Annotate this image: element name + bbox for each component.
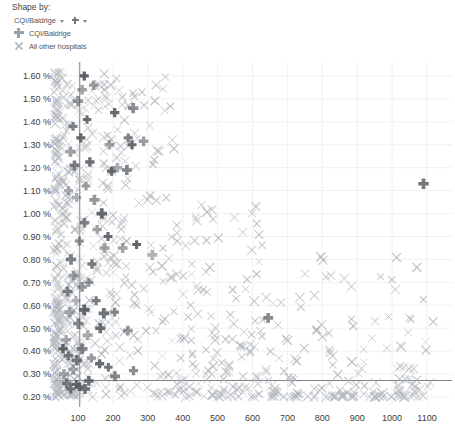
y-axis-tick-labels: 0.20 %0.30 %0.40 %0.50 %0.60 %0.70 %0.80… bbox=[23, 71, 51, 402]
data-point-other bbox=[152, 196, 160, 204]
data-point-other bbox=[206, 263, 214, 271]
y-axis-tick-label: 1.00 % bbox=[23, 209, 51, 219]
data-point-other bbox=[105, 100, 112, 107]
data-point-other bbox=[150, 268, 157, 275]
data-point-other bbox=[158, 262, 166, 270]
y-axis-tick-label: 1.10 % bbox=[23, 186, 51, 196]
data-point-other bbox=[170, 144, 178, 152]
data-point-other bbox=[293, 357, 301, 365]
data-point-other bbox=[173, 222, 180, 229]
data-point-other bbox=[310, 291, 319, 300]
data-point-other bbox=[429, 318, 437, 326]
data-point-other bbox=[274, 321, 282, 329]
data-point-cqi bbox=[99, 308, 109, 318]
data-point-other bbox=[189, 261, 195, 267]
data-point-other bbox=[100, 147, 108, 155]
data-point-cqi bbox=[80, 71, 89, 80]
data-point-other bbox=[368, 334, 376, 342]
y-axis-tick-label: 0.60 % bbox=[23, 301, 51, 311]
x-axis-tick-label: 100 bbox=[70, 413, 85, 423]
x-axis-tick-label: 200 bbox=[105, 413, 120, 423]
data-point-other bbox=[253, 271, 260, 278]
data-point-other bbox=[239, 228, 247, 236]
data-point-other bbox=[53, 160, 61, 168]
data-point-other bbox=[151, 362, 158, 369]
data-point-cqi bbox=[87, 259, 96, 268]
data-point-other bbox=[204, 376, 211, 383]
data-point-other bbox=[115, 343, 124, 352]
data-point-other bbox=[214, 234, 222, 242]
data-point-other bbox=[140, 101, 147, 108]
data-point-other bbox=[89, 242, 97, 250]
data-point-other bbox=[209, 362, 217, 370]
y-axis-tick-label: 0.30 % bbox=[23, 369, 51, 379]
data-point-other bbox=[160, 245, 166, 251]
data-point-other bbox=[377, 274, 383, 280]
data-point-other bbox=[168, 338, 175, 345]
data-point-other bbox=[162, 73, 169, 80]
data-point-other bbox=[99, 179, 108, 188]
data-point-other bbox=[229, 286, 236, 293]
data-point-other bbox=[132, 380, 141, 389]
data-point-other bbox=[420, 296, 426, 302]
data-point-other bbox=[347, 282, 355, 290]
data-point-other bbox=[408, 316, 414, 322]
y-axis-tick-label: 0.90 % bbox=[23, 232, 51, 242]
data-point-other bbox=[405, 329, 412, 336]
data-point-other bbox=[185, 313, 192, 320]
data-point-other bbox=[88, 209, 95, 216]
data-point-cqi bbox=[77, 85, 87, 95]
y-axis-tick-label: 0.40 % bbox=[23, 346, 51, 356]
data-point-other bbox=[222, 336, 229, 343]
data-point-other bbox=[250, 297, 259, 306]
y-axis-tick-label: 1.50 % bbox=[23, 94, 51, 104]
data-point-other bbox=[238, 353, 245, 360]
data-point-other bbox=[113, 154, 121, 162]
data-point-other bbox=[123, 263, 130, 270]
data-point-other bbox=[121, 279, 129, 287]
data-point-cqi bbox=[85, 157, 94, 166]
data-point-other bbox=[167, 103, 173, 109]
data-point-other bbox=[138, 89, 145, 96]
data-point-other bbox=[198, 201, 205, 208]
data-point-other bbox=[203, 237, 210, 244]
data-point-other bbox=[360, 346, 367, 353]
data-point-other bbox=[413, 263, 421, 271]
x-axis-tick-labels: 10020030040050060070080090010001100 bbox=[70, 413, 436, 423]
x-axis-tick-label: 700 bbox=[280, 413, 295, 423]
data-point-other bbox=[255, 231, 263, 239]
data-point-other bbox=[422, 346, 430, 354]
y-axis-tick-label: 0.50 % bbox=[23, 324, 51, 334]
data-point-other bbox=[120, 116, 128, 124]
data-point-other bbox=[119, 94, 126, 101]
data-point-other bbox=[163, 194, 170, 201]
data-point-other bbox=[211, 336, 220, 345]
data-point-other bbox=[146, 263, 154, 271]
x-axis-tick-label: 600 bbox=[245, 413, 260, 423]
data-point-other bbox=[208, 385, 214, 391]
data-point-other bbox=[118, 392, 125, 399]
data-point-cqi bbox=[89, 195, 99, 205]
data-point-other bbox=[115, 126, 121, 132]
y-axis-tick-label: 0.80 % bbox=[23, 255, 51, 265]
data-point-other bbox=[103, 337, 111, 345]
data-point-cqi bbox=[110, 108, 119, 117]
data-point-other bbox=[100, 160, 107, 167]
data-point-cqi bbox=[132, 240, 141, 249]
data-point-cqi bbox=[68, 364, 78, 374]
x-axis-tick-label: 900 bbox=[350, 413, 365, 423]
data-point-other bbox=[227, 311, 235, 319]
data-point-other bbox=[209, 216, 216, 223]
data-point-other bbox=[233, 295, 239, 301]
data-point-other bbox=[95, 107, 101, 113]
data-point-other bbox=[208, 391, 216, 399]
data-point-cqi bbox=[75, 237, 84, 246]
data-point-other bbox=[275, 355, 282, 362]
data-point-other bbox=[130, 331, 138, 339]
data-point-other bbox=[208, 313, 215, 320]
data-point-other bbox=[322, 273, 329, 280]
data-point-other bbox=[168, 273, 177, 282]
data-point-other bbox=[226, 390, 235, 399]
data-point-other bbox=[259, 242, 266, 249]
data-point-other bbox=[347, 358, 356, 367]
